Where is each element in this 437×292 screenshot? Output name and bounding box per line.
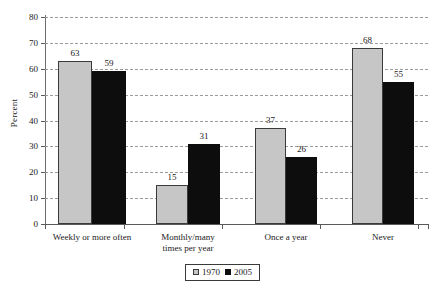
bar-value-label: 68 — [352, 36, 383, 45]
y-tick-label: 50 — [14, 91, 38, 100]
plot-area — [45, 17, 428, 224]
y-tick-label: 70 — [14, 39, 38, 48]
y-tick-label: 10 — [14, 194, 38, 203]
gridline — [45, 17, 428, 18]
bar-value-label: 37 — [255, 116, 286, 125]
bar-2005-4 — [383, 82, 414, 224]
y-tick-label: 60 — [14, 65, 38, 74]
x-category-label: Never — [323, 232, 437, 243]
x-tick-mark — [45, 225, 46, 229]
x-category-label-line: Never — [323, 232, 437, 243]
y-tick-label: 40 — [14, 117, 38, 126]
bar-1970-1 — [58, 61, 92, 224]
bar-2005-1 — [92, 71, 126, 224]
legend-item-2005: 2005 — [225, 267, 252, 277]
x-tick-mark — [222, 225, 223, 229]
bar-1970-4 — [352, 48, 383, 224]
y-tick-label: 30 — [14, 142, 38, 151]
y-tick-label: 0 — [14, 220, 38, 229]
x-tick-mark — [124, 225, 125, 229]
legend-swatch-icon-2005 — [225, 269, 231, 275]
bar-value-label: 55 — [383, 70, 414, 79]
legend-label-2005: 2005 — [234, 267, 252, 277]
bar-2005-2 — [188, 144, 220, 224]
y-tick-label: 20 — [14, 168, 38, 177]
legend-label-1970: 1970 — [202, 267, 220, 277]
y-tick-label: 80 — [14, 13, 38, 22]
x-tick-mark — [428, 225, 429, 229]
x-tick-mark — [320, 225, 321, 229]
bar-value-label: 15 — [156, 173, 188, 182]
x-category-label-line: times per year — [128, 243, 248, 254]
legend-item-1970: 1970 — [193, 267, 220, 277]
bar-value-label: 59 — [92, 59, 126, 68]
x-tick-mark — [418, 225, 419, 229]
bar-1970-2 — [156, 185, 188, 224]
bar-value-label: 31 — [188, 132, 220, 141]
legend-swatch-icon-1970 — [193, 269, 199, 275]
bar-chart: Percent 01020304050607080 63591531372668… — [0, 0, 437, 292]
bar-2005-3 — [286, 157, 317, 224]
gridline — [45, 224, 428, 225]
bar-value-label: 26 — [286, 145, 317, 154]
legend: 1970 2005 — [185, 264, 260, 281]
bar-1970-3 — [255, 128, 286, 224]
bar-value-label: 63 — [58, 49, 92, 58]
